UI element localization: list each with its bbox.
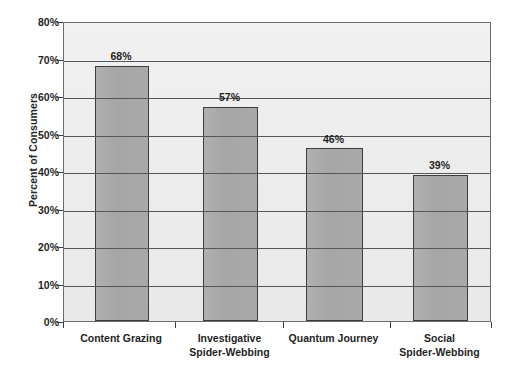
bar-value-label: 39% [392, 159, 487, 171]
y-axis-tick-mark [57, 210, 63, 211]
bar-chart-figure: Percent of Consumers 0%10%20%30%40%50%60… [0, 0, 513, 371]
y-axis-tick-label: 20% [19, 241, 59, 253]
x-axis-label-line1: Social [424, 332, 455, 344]
y-axis-tick-label: 80% [19, 16, 59, 28]
gridline [64, 211, 490, 212]
gridline [64, 98, 490, 99]
bar [95, 66, 149, 321]
x-axis-label-line2: Spider-Webbing [157, 345, 302, 359]
bar-value-label: 68% [74, 50, 168, 62]
y-axis-tick-label: 40% [19, 166, 59, 178]
bar-fill [204, 108, 257, 320]
y-axis-tick-label: 0% [19, 316, 59, 328]
y-axis-tick-labels: 0%10%20%30%40%50%60%70%80% [12, 0, 59, 371]
x-axis-tick-mark [491, 322, 492, 328]
y-axis-tick-label: 50% [19, 129, 59, 141]
y-axis-tick-mark [57, 97, 63, 98]
x-axis-tick-mark [283, 322, 284, 328]
y-axis-tick-label: 30% [19, 204, 59, 216]
y-axis-tick-mark [57, 285, 63, 286]
bar [203, 107, 258, 321]
x-axis-label-line1: Content Grazing [80, 332, 162, 344]
x-axis-tick-mark [63, 322, 64, 328]
y-axis-tick-mark [57, 135, 63, 136]
bar-fill [96, 67, 148, 320]
gridline [64, 248, 490, 249]
y-axis-tick-label: 10% [19, 279, 59, 291]
gridline [64, 286, 490, 287]
plot-area [63, 22, 491, 322]
y-axis-tick-mark [57, 247, 63, 248]
x-axis-label-line1: Quantum Journey [289, 332, 379, 344]
y-axis-tick-label: 60% [19, 91, 59, 103]
gridline [64, 173, 490, 174]
y-axis-tick-mark [57, 22, 63, 23]
x-axis-tick-mark [390, 322, 391, 328]
y-axis-tick-label: 70% [19, 54, 59, 66]
bar-fill [307, 149, 362, 320]
gridline [64, 136, 490, 137]
y-axis-tick-mark [57, 172, 63, 173]
bar-value-label: 46% [285, 133, 382, 145]
x-axis-category-label: SocialSpider-Webbing [367, 331, 512, 359]
x-axis-tick-mark [175, 322, 176, 328]
bar-value-label: 57% [182, 91, 277, 103]
x-axis-label-line2: Spider-Webbing [367, 345, 512, 359]
x-axis-label-line1: Investigative [198, 332, 262, 344]
y-axis-tick-mark [57, 60, 63, 61]
